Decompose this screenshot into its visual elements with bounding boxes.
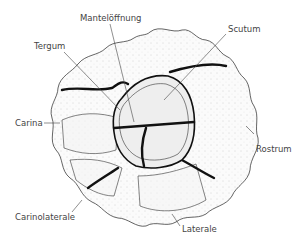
label-tergum: Tergum	[33, 41, 65, 51]
plate-carina	[62, 114, 118, 154]
label-laterale: Laterale	[182, 224, 217, 234]
label-mantleopening: Mantelöffnung	[80, 13, 141, 23]
leader-carinolaterale	[72, 200, 82, 212]
plate-carinolaterale	[70, 159, 122, 196]
label-carina: Carina	[15, 118, 43, 128]
barnacle-diagram: Mantelöffnung Scutum Tergum Carina Rostr…	[0, 0, 303, 246]
label-carinolaterale: Carinolaterale	[15, 212, 75, 222]
label-scutum: Scutum	[228, 24, 260, 34]
label-rostrum: Rostrum	[256, 144, 292, 154]
